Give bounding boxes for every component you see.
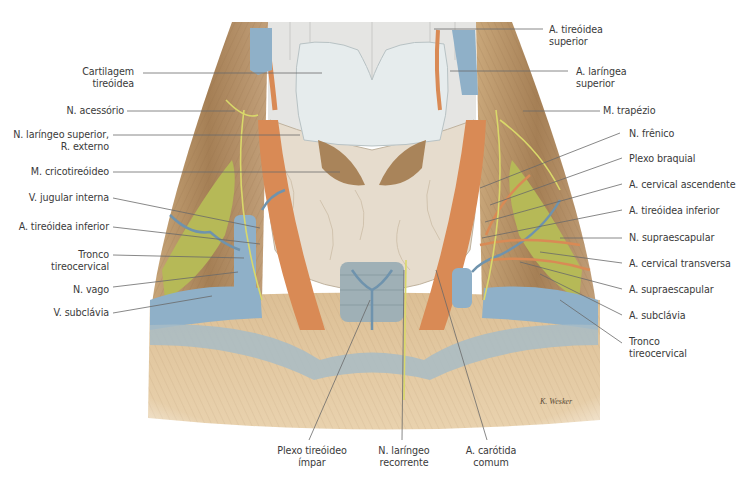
label-a-tireoidea-inferior-left: A. tireóidea inferior: [19, 221, 109, 233]
label-a-carotida-comum: A. carótidacomum: [456, 445, 526, 469]
label-m-cricotireoideo: M. cricotireóideo: [31, 166, 109, 178]
label-a-subclavia: A. subclávia: [629, 310, 686, 322]
label-v-subclavia: V. subclávia: [54, 307, 109, 319]
label-n-laringeo-recorrente: N. laríngeorecorrente: [364, 445, 444, 469]
label-a-laringea-superior: A. laríngeasuperior: [576, 66, 627, 90]
artist-signature: K. Wesker: [539, 397, 573, 406]
label-tronco-tireocervical-right: Troncotireocervical: [629, 336, 687, 360]
label-a-tireoidea-inferior-right: A. tireóidea inferior: [629, 205, 719, 217]
label-n-acessorio: N. acessório: [67, 105, 124, 117]
label-n-laringeo-superior-r-externo: N. laríngeo superior,R. externo: [13, 129, 109, 153]
label-plexo-tireoideo-impar: Plexo tireóideoímpar: [272, 445, 352, 469]
label-n-frenico: N. frênico: [629, 128, 674, 140]
label-m-trapezio: M. trapézio: [603, 105, 655, 117]
label-n-supraescapular: N. supraescapular: [629, 232, 714, 244]
label-a-supraescapular: A. supraescapular: [629, 284, 714, 296]
label-cartilagem-tireoidea: Cartilagemtireóidea: [82, 66, 134, 90]
label-plexo-braquial: Plexo braquial: [629, 153, 695, 165]
label-a-tireoidea-superior: A. tireóideasuperior: [549, 24, 603, 48]
label-a-cervical-ascendente: A. cervical ascendente: [629, 179, 736, 191]
label-v-jugular-interna: V. jugular interna: [29, 192, 109, 204]
label-tronco-tireocervical-left: Troncotireocervical: [51, 249, 109, 273]
label-n-vago: N. vago: [73, 284, 109, 296]
label-a-cervical-transversa: A. cervical transversa: [629, 258, 731, 270]
